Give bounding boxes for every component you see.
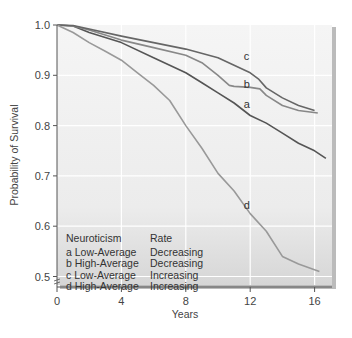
y-tick-label: 0.5 (35, 271, 50, 283)
legend-header-neuroticism: Neuroticism (66, 233, 150, 244)
x-tick-label: 0 (54, 295, 60, 307)
x-axis-title: Years (172, 308, 198, 320)
y-tick-label: 1.0 (35, 19, 50, 31)
curve-label-c: c (244, 50, 250, 62)
x-tick-label: 12 (244, 295, 256, 307)
legend-header: Neuroticism Rate (66, 233, 203, 244)
y-tick-label: 0.7 (35, 170, 50, 182)
legend-item-rate: Decreasing (150, 258, 203, 269)
y-axis-title: Probability of Survival (8, 105, 20, 206)
legend: Neuroticism Rate a Low-Average Decreasin… (66, 233, 203, 292)
y-tick-label: 0.8 (35, 120, 50, 132)
curve-label-d: d (244, 199, 250, 211)
legend-item-neuroticism: d High-Average (66, 281, 150, 292)
x-tick-label: 8 (183, 295, 189, 307)
x-tick-label: 4 (118, 295, 124, 307)
y-tick-label: 0.9 (35, 69, 50, 81)
y-axis-ticks: 1.00.90.80.70.60.5 (35, 19, 57, 283)
legend-item-rate: Increasing (150, 281, 198, 292)
legend-item-neuroticism: b High-Average (66, 258, 150, 269)
x-tick-label: 16 (308, 295, 320, 307)
y-tick-label: 0.6 (35, 220, 50, 232)
legend-item: b High-Average Decreasing (66, 258, 203, 269)
curve-label-b: b (244, 78, 250, 90)
legend-item: d High-Average Increasing (66, 281, 203, 292)
curve-label-a: a (244, 98, 251, 110)
legend-header-rate: Rate (150, 233, 172, 244)
